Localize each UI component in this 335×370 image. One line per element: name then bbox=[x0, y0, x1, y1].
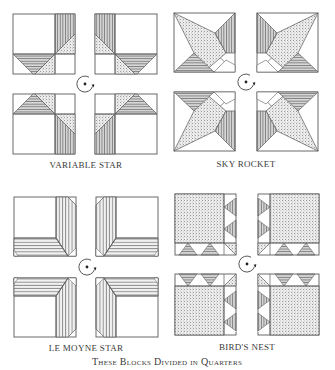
rotate-clockwise-icon bbox=[239, 256, 257, 272]
quarter-bottom-right bbox=[258, 274, 319, 335]
quarter-top-right bbox=[258, 194, 319, 255]
quarter-bottom-left bbox=[174, 92, 235, 151]
quilt-blocks-diagram bbox=[0, 0, 335, 370]
quarter-top-left bbox=[13, 14, 75, 74]
quarter-bottom-right bbox=[257, 92, 318, 151]
quarter-top-right bbox=[257, 13, 318, 72]
rotate-clockwise-icon bbox=[238, 74, 256, 90]
quarter-bottom-left bbox=[13, 94, 75, 154]
quarter-top-right bbox=[96, 197, 158, 256]
caption-variable-star: VARIABLE STAR bbox=[36, 160, 136, 170]
caption-le-moyne-star: LE MOYNE STAR bbox=[36, 343, 136, 353]
block-birds-nest bbox=[175, 194, 319, 335]
block-variable-star bbox=[13, 14, 157, 154]
quarter-bottom-left bbox=[175, 274, 236, 335]
quarter-top-left bbox=[174, 13, 235, 72]
quarter-top-right bbox=[95, 14, 157, 74]
rotate-clockwise-icon bbox=[79, 259, 97, 275]
block-sky-rocket bbox=[174, 13, 318, 151]
quarter-bottom-right bbox=[96, 278, 158, 337]
quarter-top-left bbox=[175, 194, 236, 255]
caption-birds-nest: BIRD'S NEST bbox=[197, 342, 297, 352]
rotate-clockwise-icon bbox=[77, 76, 95, 92]
quarter-bottom-right bbox=[95, 94, 157, 154]
figure-caption: These Blocks Divided in Quarters bbox=[67, 356, 267, 367]
block-le-moyne-star bbox=[14, 197, 158, 337]
quarter-top-left bbox=[14, 197, 76, 256]
quarter-bottom-left bbox=[14, 278, 76, 337]
caption-sky-rocket: SKY ROCKET bbox=[196, 159, 296, 169]
